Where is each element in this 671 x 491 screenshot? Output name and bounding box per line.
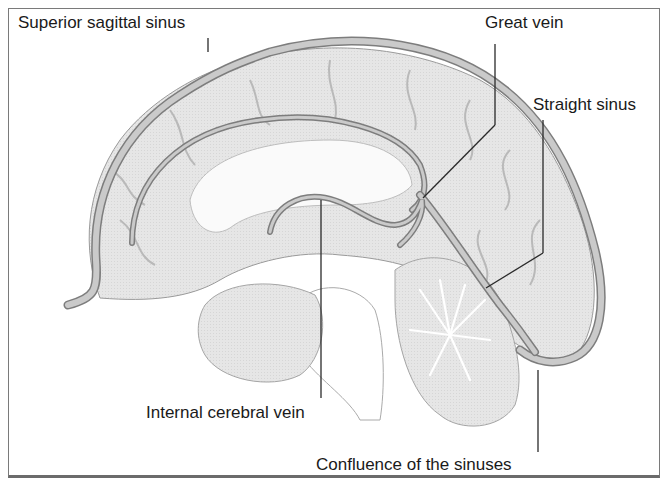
label-confluence-of-sinuses: Confluence of the sinuses [316,456,512,473]
temporal-lobe [198,284,322,382]
label-straight-sinus: Straight sinus [533,96,636,113]
brain-illustration [0,0,671,491]
label-internal-cerebral-vein: Internal cerebral vein [146,404,305,421]
label-great-vein: Great vein [485,14,563,31]
label-superior-sagittal-sinus: Superior sagittal sinus [18,14,185,31]
